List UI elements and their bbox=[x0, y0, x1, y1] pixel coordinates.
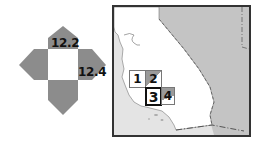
locator-map: 1 2 3 4 bbox=[112, 5, 251, 137]
grid-cell-label: 3 bbox=[149, 90, 159, 104]
north-sheet-label: 12.2 bbox=[51, 37, 79, 49]
grid-cell-4[interactable]: 4 bbox=[161, 87, 175, 105]
grid-cell-3-selected[interactable]: 3 bbox=[145, 87, 162, 106]
arrow-west[interactable] bbox=[19, 49, 48, 80]
grid-cell-label: 4 bbox=[164, 90, 172, 102]
arrow-south[interactable] bbox=[48, 80, 78, 115]
navigation-compass: 12.2 12.4 bbox=[0, 0, 110, 147]
grid-cell-label: 1 bbox=[133, 73, 141, 85]
grid-cell-1[interactable]: 1 bbox=[129, 70, 146, 88]
east-sheet-label: 12.4 bbox=[78, 66, 106, 78]
grid-cell-2[interactable]: 2 bbox=[145, 70, 162, 88]
compass-center bbox=[48, 49, 78, 80]
grid-cell-label: 2 bbox=[149, 73, 157, 85]
